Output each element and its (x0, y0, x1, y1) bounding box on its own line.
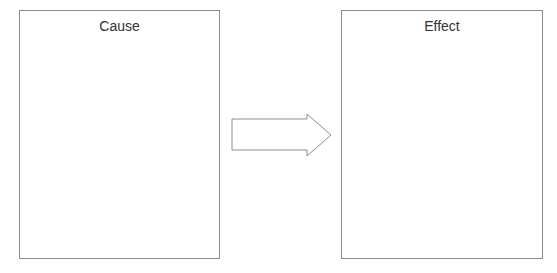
effect-box: Effect (341, 10, 543, 259)
effect-label: Effect (342, 18, 542, 34)
